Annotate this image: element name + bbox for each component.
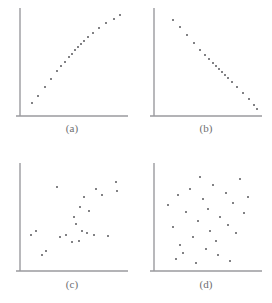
caption-b: (b) [150,122,262,134]
panel-a [16,8,128,120]
axes-b [150,8,262,120]
panel-b [150,8,262,120]
panel-d [150,163,262,275]
panel-c [16,163,128,275]
axes-a [16,8,128,120]
scatterplot-figure: (a) (b) (c) (d) [0,0,272,303]
axes-c [16,163,128,275]
caption-a: (a) [16,122,128,134]
axes-d [150,163,262,275]
caption-d: (d) [150,278,262,290]
caption-c: (c) [16,278,128,290]
